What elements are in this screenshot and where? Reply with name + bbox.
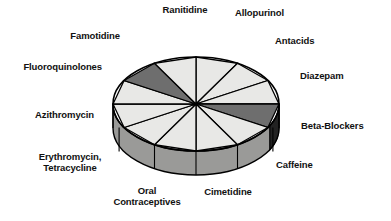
slice-label-fluoroquinolones: Fluoroquinolones: [5, 62, 102, 73]
slice-label-antacids: Antacids: [275, 36, 347, 47]
slice-label-caffeine: Caffeine: [276, 160, 346, 171]
slice-label-allopurinol: Allopurinol: [235, 8, 315, 19]
slice-label-ranitidine: Ranitidine: [147, 5, 223, 16]
slice-label-oral-contraceptives-line2: Contraceptives: [105, 197, 189, 208]
slice-label-oral-contraceptives: Oral Contraceptives: [105, 186, 189, 207]
slice-label-beta-blockers: Beta-Blockers: [301, 121, 389, 132]
pie-top-face: [113, 57, 279, 151]
slice-label-erythromycin-line2: Tetracycline: [22, 163, 118, 174]
pie-3d-body: [113, 57, 279, 175]
pie-chart-figure: Ranitidine Allopurinol Antacids Diazepam…: [0, 0, 391, 221]
slice-label-erythromycin-tetracycline: Erythromycin, Tetracycline: [22, 152, 118, 173]
slice-label-diazepam: Diazepam: [300, 71, 372, 82]
slice-label-cimetidine: Cimetidine: [188, 187, 268, 198]
slice-label-famotidine: Famotidine: [42, 31, 120, 42]
slice-label-azithromycin: Azithromycin: [14, 110, 94, 121]
